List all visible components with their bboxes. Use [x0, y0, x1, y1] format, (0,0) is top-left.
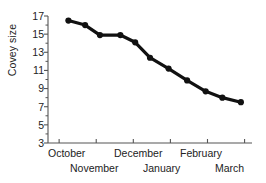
data-point: [165, 66, 171, 72]
data-point: [65, 17, 71, 23]
data-point: [238, 99, 244, 105]
data-point: [203, 88, 209, 94]
data-point: [97, 32, 103, 38]
data-point: [147, 55, 153, 61]
x-axis-ticks: [59, 139, 244, 143]
axis-lines: [48, 16, 252, 143]
data-point: [117, 32, 123, 38]
covey-size-line-chart: Covey size 17 15 13 11 9 7 5 3 October N…: [0, 0, 266, 183]
data-point: [132, 39, 138, 45]
data-point: [82, 22, 88, 28]
data-point: [184, 77, 190, 83]
data-line-covey-size: [68, 21, 240, 103]
data-point: [219, 95, 225, 101]
plot-area: [0, 0, 266, 183]
